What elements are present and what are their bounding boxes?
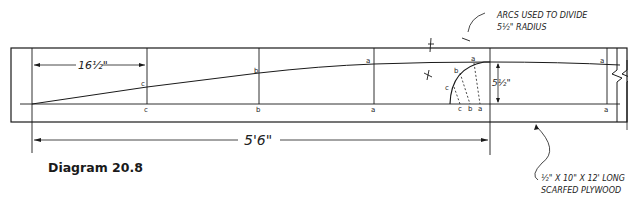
base-label-a-right: a (604, 106, 608, 114)
diagram-caption: Diagram 20.8 (48, 160, 143, 175)
sheer-curve (32, 62, 620, 104)
arcs-note-line1: ARCS USED TO DIVIDE (496, 11, 588, 20)
radius-label: 5½" (492, 78, 511, 88)
arc-cross-marks (424, 38, 470, 80)
arc-base-label-a: a (478, 105, 482, 113)
curve-label-a-right: a (600, 57, 604, 65)
projection-b (460, 73, 470, 104)
plywood-note-line2: SCARFED PLYWOOD (541, 186, 621, 195)
plywood-note-line1: ½" X 10" X 12' LONG (541, 174, 625, 183)
base-label-b: b (256, 106, 261, 114)
arc-base-label-b: b (468, 105, 473, 113)
length-label: 5'6" (244, 132, 272, 148)
spacing-label: 16½" (78, 59, 108, 72)
curve-label-c: c (141, 80, 145, 88)
arcs-note-line2: 5½" RADIUS (497, 23, 547, 32)
arc-label-b: b (454, 67, 459, 75)
arc-label-a: a (471, 55, 475, 63)
base-label-a: a (371, 106, 375, 114)
curve-label-a: a (366, 57, 370, 65)
curve-label-b: b (254, 67, 259, 75)
arc-label-c: c (445, 84, 449, 92)
projection-c (454, 87, 460, 104)
arc-base-label-c: c (458, 105, 462, 113)
plywood-leader (535, 126, 550, 180)
base-label-c: c (144, 106, 148, 114)
arcs-leader (468, 13, 485, 32)
projection-a (474, 63, 480, 104)
